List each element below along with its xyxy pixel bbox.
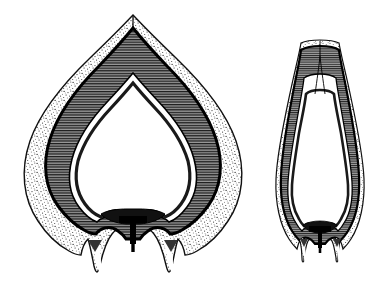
figure-container: Longitudinal sections of two seed forms … — [0, 0, 391, 281]
seed-section-illustration — [0, 0, 391, 281]
